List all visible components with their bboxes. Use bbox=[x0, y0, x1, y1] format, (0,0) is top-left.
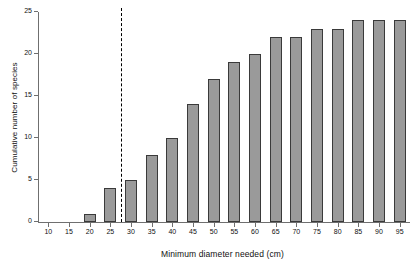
threshold-line bbox=[121, 8, 122, 222]
y-tick-label-5: 5 bbox=[28, 174, 32, 183]
x-tick-label-65: 65 bbox=[266, 227, 286, 236]
plot-area: 0510152025 10152025303540455055606570758… bbox=[38, 12, 410, 223]
y-tick-label-25: 25 bbox=[24, 6, 32, 15]
cumulative-species-bar-chart: Cumulative number of species 0510152025 … bbox=[0, 0, 417, 268]
bar-65 bbox=[270, 37, 282, 222]
bar-90 bbox=[373, 20, 385, 222]
x-axis-label: Minimum diameter needed (cm) bbox=[28, 249, 417, 259]
x-tick-label-80: 80 bbox=[328, 227, 348, 236]
bar-50 bbox=[208, 79, 220, 222]
x-tick-label-70: 70 bbox=[286, 227, 306, 236]
bar-20 bbox=[84, 214, 96, 222]
y-tick-0: 0 bbox=[34, 221, 38, 222]
x-tick-label-85: 85 bbox=[348, 227, 368, 236]
x-tick-label-45: 45 bbox=[183, 227, 203, 236]
y-tick-25: 25 bbox=[34, 11, 38, 12]
x-tick-label-40: 40 bbox=[162, 227, 182, 236]
y-axis-line bbox=[38, 12, 39, 223]
bar-75 bbox=[311, 29, 323, 222]
bar-35 bbox=[146, 155, 158, 222]
bar-30 bbox=[125, 180, 137, 222]
y-tick-10: 10 bbox=[34, 137, 38, 138]
x-tick-label-15: 15 bbox=[59, 227, 79, 236]
x-tick-label-35: 35 bbox=[142, 227, 162, 236]
x-tick-label-50: 50 bbox=[204, 227, 224, 236]
x-axis-line bbox=[38, 222, 410, 223]
x-tick-label-60: 60 bbox=[245, 227, 265, 236]
bar-25 bbox=[104, 188, 116, 222]
y-tick-label-10: 10 bbox=[24, 132, 32, 141]
x-tick-label-10: 10 bbox=[38, 227, 58, 236]
x-tick-label-25: 25 bbox=[100, 227, 120, 236]
bar-70 bbox=[290, 37, 302, 222]
x-tick-label-95: 95 bbox=[390, 227, 410, 236]
bar-40 bbox=[166, 138, 178, 222]
x-tick-label-90: 90 bbox=[369, 227, 389, 236]
y-tick-15: 15 bbox=[34, 95, 38, 96]
bar-60 bbox=[249, 54, 261, 222]
y-tick-5: 5 bbox=[34, 179, 38, 180]
bar-45 bbox=[187, 104, 199, 222]
x-tick-label-75: 75 bbox=[307, 227, 327, 236]
y-tick-label-20: 20 bbox=[24, 48, 32, 57]
y-tick-label-0: 0 bbox=[28, 216, 32, 225]
bar-80 bbox=[332, 29, 344, 222]
y-tick-label-15: 15 bbox=[24, 90, 32, 99]
x-tick-label-20: 20 bbox=[80, 227, 100, 236]
x-tick-label-30: 30 bbox=[121, 227, 141, 236]
y-axis-label: Cumulative number of species bbox=[8, 10, 22, 225]
bar-55 bbox=[228, 62, 240, 222]
y-tick-20: 20 bbox=[34, 53, 38, 54]
bar-95 bbox=[394, 20, 406, 222]
x-tick-label-55: 55 bbox=[224, 227, 244, 236]
bar-85 bbox=[352, 20, 364, 222]
